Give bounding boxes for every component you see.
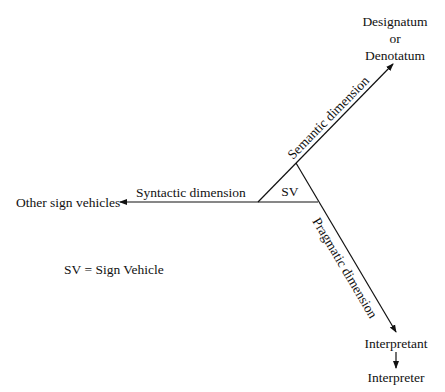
pragmatic-dimension-arrow bbox=[296, 163, 396, 332]
interpreter-label: Interpreter bbox=[368, 370, 425, 385]
denotatum-label: Denotatum bbox=[365, 48, 425, 63]
or-label: or bbox=[389, 31, 401, 46]
semantic-dimension-label: Semantic dimension bbox=[284, 73, 372, 162]
semantic-dimension-arrow bbox=[258, 64, 393, 202]
semiotic-diagram: SV Designatum or Denotatum Other sign ve… bbox=[0, 0, 445, 392]
designatum-label: Designatum bbox=[362, 14, 428, 29]
other-sign-vehicles-label: Other sign vehicles bbox=[16, 195, 120, 210]
interpretant-label: Interpretant bbox=[365, 336, 428, 351]
legend-text: SV = Sign Vehicle bbox=[64, 262, 164, 277]
syntactic-dimension-label: Syntactic dimension bbox=[136, 185, 246, 200]
pragmatic-dimension-label: Pragmatic dimension bbox=[309, 215, 380, 321]
sv-label: SV bbox=[281, 184, 299, 199]
